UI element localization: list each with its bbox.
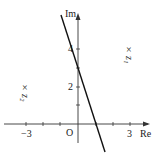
x-tick-label-3: 3 xyxy=(127,128,132,139)
complex-plane-diagram: Im Re O −3 3 2 4 × z₁ × z₂ xyxy=(0,0,158,158)
x-axis-label: Re xyxy=(140,128,152,139)
z2-label: z₂ xyxy=(20,93,31,102)
y-tick-label-2: 2 xyxy=(68,81,73,92)
real-axis-arrow-icon xyxy=(143,122,150,127)
z1-label: z₁ xyxy=(124,55,135,63)
z1-marker-icon: × xyxy=(126,44,132,55)
z2-marker-icon: × xyxy=(22,82,28,93)
point-z1: × z₁ xyxy=(124,44,135,63)
x-tick-label-neg3: −3 xyxy=(21,128,32,139)
y-axis-label: Im xyxy=(65,8,76,19)
point-z2: × z₂ xyxy=(20,82,31,102)
imaginary-axis-arrow-icon xyxy=(76,13,81,20)
origin-label: O xyxy=(66,127,73,138)
